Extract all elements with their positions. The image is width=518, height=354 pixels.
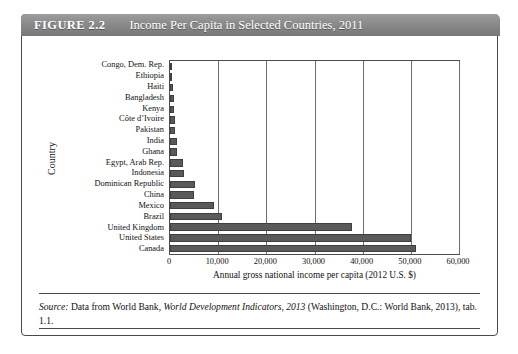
y-axis-tick-label: Ethiopia (46, 71, 167, 82)
source-text-1: Data from World Bank, (68, 301, 163, 312)
bar (170, 159, 183, 166)
figure-card: FIGURE 2.2 Income Per Capita in Selected… (21, 14, 498, 336)
bar-row (170, 147, 459, 158)
y-axis-tick-label: Mexico (46, 201, 167, 212)
bar (170, 245, 416, 252)
bar (170, 127, 175, 134)
y-axis-tick-labels: Congo, Dem. Rep.EthiopiaHaitiBangladeshK… (46, 60, 167, 255)
bar (170, 191, 194, 198)
y-axis-tick-label: Kenya (46, 103, 167, 114)
bar (170, 148, 177, 155)
bar-row (170, 136, 459, 147)
y-axis-tick-label: Bangladesh (46, 92, 167, 103)
bar (170, 84, 173, 91)
source-prefix: Source: (39, 301, 68, 312)
bar (170, 95, 174, 102)
y-axis-tick-label: Ghana (46, 147, 167, 158)
bar (170, 170, 184, 177)
bar-row (170, 233, 459, 244)
bar-row (170, 104, 459, 115)
y-axis-tick-label: Côte d’Ivoire (46, 114, 167, 125)
source-publication: World Development Indicators, 2013 (163, 301, 305, 312)
bar-row (170, 115, 459, 126)
x-axis-tick-label: 10,000 (206, 257, 229, 266)
bar-row (170, 157, 459, 168)
bar (170, 73, 172, 80)
bar-row (170, 179, 459, 190)
y-axis-tick-label: Congo, Dem. Rep. (46, 60, 167, 71)
x-axis-tick-label: 50,000 (398, 257, 421, 266)
source-note: Source: Data from World Bank, World Deve… (39, 300, 483, 327)
bar-row (170, 222, 459, 233)
note-divider-top (39, 293, 480, 294)
y-axis-tick-label: Dominican Republic (46, 179, 167, 190)
figure-number: FIGURE 2.2 (34, 18, 105, 33)
bar (170, 234, 411, 241)
y-axis-tick-label: Egypt, Arab Rep. (46, 157, 167, 168)
bar-row (170, 211, 459, 222)
figure-title: Income Per Capita in Selected Countries,… (129, 18, 363, 33)
y-axis-tick-label: United Kingdom (46, 222, 167, 233)
y-axis-tick-label: India (46, 136, 167, 147)
x-axis-label: Annual gross national income per capita … (169, 270, 460, 280)
x-axis-tick-label: 30,000 (302, 257, 325, 266)
bar (170, 213, 222, 220)
figure-header-bar: FIGURE 2.2 Income Per Capita in Selected… (21, 14, 500, 36)
x-axis-tick-label: 60,000 (446, 257, 469, 266)
x-axis-tick-labels: 010,00020,00030,00040,00050,00060,000 (169, 257, 460, 269)
bar-row (170, 72, 459, 83)
bar-row (170, 190, 459, 201)
bar (170, 106, 174, 113)
bar-row (170, 82, 459, 93)
bar (170, 202, 214, 209)
plot-area (169, 60, 460, 255)
y-axis-tick-label: Brazil (46, 212, 167, 223)
chart-area: Country Congo, Dem. Rep.EthiopiaHaitiBan… (22, 37, 497, 284)
note-divider-bottom (39, 328, 480, 329)
bar (170, 63, 172, 70)
y-axis-tick-label: China (46, 190, 167, 201)
y-axis-tick-label: Canada (46, 244, 167, 255)
y-axis-tick-label: United States (46, 233, 167, 244)
y-axis-tick-label: Haiti (46, 82, 167, 93)
bar-row (170, 93, 459, 104)
bar (170, 138, 177, 145)
y-axis-tick-label: Indonesia (46, 168, 167, 179)
gridline (459, 61, 460, 254)
x-axis-tick-label: 20,000 (254, 257, 277, 266)
bar-row (170, 200, 459, 211)
bar-row (170, 125, 459, 136)
bar (170, 116, 175, 123)
bar-series (170, 61, 459, 254)
x-axis-tick-label: 0 (167, 257, 171, 266)
bar (170, 181, 195, 188)
bar (170, 223, 352, 230)
bar-row (170, 168, 459, 179)
bar-row (170, 61, 459, 72)
x-axis-tick-label: 40,000 (350, 257, 373, 266)
y-axis-tick-label: Pakistan (46, 125, 167, 136)
bar-row (170, 243, 459, 254)
